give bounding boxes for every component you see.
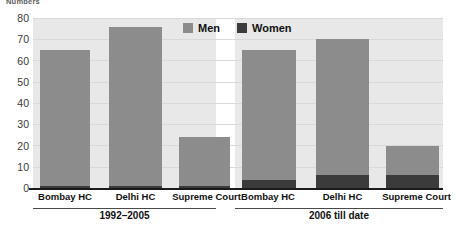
legend-label-men: Men xyxy=(198,22,220,34)
x-label-2006-till-date-delhi-hc: Delhi HC xyxy=(313,191,372,202)
group-caption-2006-till-date: 2006 till date xyxy=(235,210,443,221)
gridline-50 xyxy=(33,82,443,83)
gridline-20 xyxy=(33,145,443,146)
gridline-30 xyxy=(33,124,443,125)
bar-segment-women xyxy=(386,175,439,188)
bar-segment-men xyxy=(109,27,162,186)
bar-segment-men xyxy=(386,146,439,176)
y-tick-60: 60 xyxy=(3,55,29,67)
gridline-40 xyxy=(33,103,443,104)
legend-label-women: Women xyxy=(252,22,292,34)
y-tick-10: 10 xyxy=(3,161,29,173)
bar-2006-till-date-delhi-hc xyxy=(316,39,369,188)
legend: Men Women xyxy=(183,22,292,34)
group-rule-1992-2005 xyxy=(33,208,216,209)
x-axis-category-labels: Bombay HC Delhi HC Supreme Court Bombay … xyxy=(33,191,443,206)
bar-segment-men xyxy=(242,50,296,180)
legend-swatch-men-icon xyxy=(183,23,193,33)
group-caption-1992-2005: 1992–2005 xyxy=(33,210,216,221)
legend-swatch-women-icon xyxy=(237,23,247,33)
bar-2006-till-date-bombay-hc xyxy=(242,50,296,188)
bar-segment-women xyxy=(242,180,296,189)
bar-segment-women xyxy=(316,175,369,188)
y-tick-70: 70 xyxy=(3,33,29,45)
x-label-1992-2005-bombay-hc: Bombay HC xyxy=(33,191,97,202)
bar-segment-men xyxy=(316,39,369,175)
bar-1992-2005-bombay-hc xyxy=(40,50,90,188)
y-tick-30: 30 xyxy=(3,118,29,130)
x-label-2006-till-date-supreme-court: Supreme Court xyxy=(375,191,456,202)
gridline-60 xyxy=(33,60,443,61)
x-label-2006-till-date-bombay-hc: Bombay HC xyxy=(236,191,300,202)
y-tick-40: 40 xyxy=(3,97,29,109)
bar-1992-2005-supreme-court xyxy=(179,137,230,188)
legend-item-women: Women xyxy=(237,22,292,34)
y-axis-ticks: 80 70 60 50 40 30 20 10 0 xyxy=(0,18,29,188)
y-tick-80: 80 xyxy=(3,12,29,24)
bar-2006-till-date-supreme-court xyxy=(386,146,439,189)
bar-segment-men xyxy=(179,137,230,186)
gridline-10 xyxy=(33,167,443,168)
axis-caption: Numbers xyxy=(6,0,40,4)
gridline-80 xyxy=(33,18,443,19)
x-axis-baseline xyxy=(29,188,443,190)
y-tick-20: 20 xyxy=(3,140,29,152)
gridline-70 xyxy=(33,39,443,40)
plot-area xyxy=(33,18,443,188)
group-rule-2006-till-date xyxy=(235,208,443,209)
bar-segment-men xyxy=(40,50,90,186)
y-tick-0: 0 xyxy=(3,182,29,194)
legend-item-men: Men xyxy=(183,22,220,34)
bar-1992-2005-delhi-hc xyxy=(109,27,162,189)
x-label-1992-2005-delhi-hc: Delhi HC xyxy=(106,191,165,202)
y-tick-50: 50 xyxy=(3,76,29,88)
